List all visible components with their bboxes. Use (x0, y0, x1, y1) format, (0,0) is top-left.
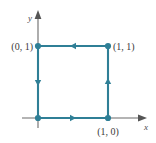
vertex-dot-bottom-right (105, 115, 111, 121)
vertex-dot-top-left (35, 43, 41, 49)
direction-arrow-top-icon (70, 43, 76, 49)
vertex-dots-group (35, 43, 111, 121)
x-axis-arrowhead (138, 115, 147, 122)
x-axis-label: x (143, 122, 148, 132)
unit-square-path (38, 46, 108, 118)
direction-arrow-right-icon (105, 78, 111, 84)
point-label-top-right: (1, 1) (113, 41, 135, 53)
direction-arrow-bottom-icon (70, 115, 76, 121)
direction-arrow-left-icon (35, 80, 41, 86)
point-label-bottom-right: (1, 0) (97, 126, 119, 138)
axes-group (22, 10, 147, 128)
vertex-dot-origin (35, 115, 41, 121)
figure-container: y x (0, 1) (1, 1) (1, 0) (0, 0, 156, 143)
direction-arrows-group (35, 43, 111, 121)
vertex-dot-top-right (105, 43, 111, 49)
y-axis-label: y (27, 13, 32, 23)
y-axis-arrowhead (35, 10, 42, 19)
point-label-top-left: (0, 1) (11, 41, 33, 53)
unit-square-figure: y x (0, 1) (1, 1) (1, 0) (0, 0, 156, 143)
